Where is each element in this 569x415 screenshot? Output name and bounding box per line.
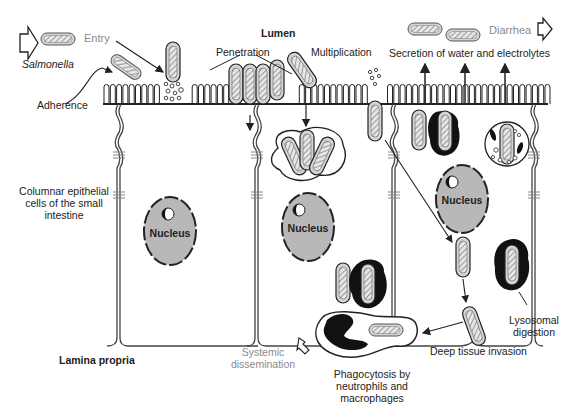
- adherence-label: Adherence: [37, 99, 88, 111]
- entry-label: Entry: [84, 32, 110, 44]
- lysosomal-line-1: Lysosomal: [504, 314, 564, 326]
- entry-bacterium: [166, 42, 180, 82]
- deep-invasion-arrow: [423, 322, 463, 333]
- lumen-bacterium-2: [446, 29, 480, 41]
- systemic-dissemination-label: Systemic dissemination: [228, 346, 298, 370]
- nucleus-2-label: Nucleus: [288, 222, 329, 234]
- lysosome-vacuole: [485, 122, 529, 166]
- systemic-line-1: Systemic: [228, 346, 298, 358]
- cell3-bacterium-1: [412, 110, 426, 150]
- descending-bacterium: [456, 237, 470, 277]
- lysosomal-line-2: digestion: [504, 326, 564, 338]
- nucleus-1: Nucleus: [144, 197, 196, 265]
- phagocyte: [316, 312, 417, 358]
- penetration-label: Penetration: [216, 46, 270, 58]
- systemic-line-2: dissemination: [228, 358, 298, 370]
- penetrating-bacteria: [229, 60, 284, 104]
- phago-line-3: macrophages: [327, 392, 417, 404]
- lysosomal-digestion-label: Lysosomal digestion: [504, 314, 564, 338]
- lysosomal-digestion-bacterium: [494, 239, 529, 290]
- phagolysosome-bacterium: [349, 260, 387, 309]
- phago-line-2: neutrophils and: [327, 380, 417, 392]
- nucleus-1-label: Nucleus: [150, 227, 191, 239]
- membrane-ruffles-2: [368, 68, 380, 85]
- diarrhea-hollow-arrow-icon: [538, 18, 552, 40]
- salmonella-hollow-arrow-icon: [20, 27, 38, 59]
- columnar-epithelial-label: Columnar epithelial cells of the small i…: [14, 185, 114, 221]
- lysosomal-leader: [519, 292, 527, 305]
- deep-invading-bacterium: [461, 305, 488, 347]
- phagocytosis-label: Phagocytosis by neutrophils and macropha…: [327, 368, 417, 404]
- phago-line-1: Phagocytosis by: [327, 368, 417, 380]
- secretion-label: Secretion of water and electrolytes: [389, 47, 550, 59]
- nucleus-3-label: Nucleus: [442, 194, 483, 206]
- multiplication-label: Multiplication: [311, 46, 372, 58]
- lumen-bacterium-1: [408, 23, 442, 35]
- intracellular-bacterium: [336, 263, 350, 303]
- diarrhea-label: Diarrhea: [489, 24, 531, 36]
- membrane-ruffles: [164, 82, 183, 101]
- transcytosing-bacterium: [368, 101, 382, 141]
- cell3-phagolysosome: [428, 111, 460, 156]
- columnar-line-3: intestine: [14, 209, 114, 221]
- adherent-bacterium: [109, 52, 144, 81]
- salmonella-label: Salmonella: [22, 58, 74, 70]
- exit-arrow: [463, 279, 466, 302]
- nucleus-3: Nucleus: [436, 165, 488, 233]
- nucleus-2: Nucleus: [282, 193, 334, 261]
- lamina-propria-label: Lamina propria: [59, 354, 135, 366]
- salmonella-bacterium-icon: [41, 33, 75, 45]
- columnar-line-1: Columnar epithelial: [14, 185, 114, 197]
- deep-tissue-invasion-label: Deep tissue invasion: [430, 345, 527, 357]
- lumen-label: Lumen: [261, 27, 295, 39]
- columnar-line-2: cells of the small: [14, 197, 114, 209]
